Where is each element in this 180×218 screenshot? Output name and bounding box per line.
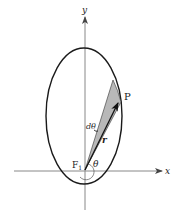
ellipse-diagram: y x P F1 θ dθ r bbox=[0, 0, 180, 218]
radius-label: r bbox=[102, 135, 108, 145]
point-P-label: P bbox=[124, 91, 131, 102]
dtheta-label: dθ bbox=[86, 122, 96, 131]
y-axis-label: y bbox=[81, 5, 88, 15]
x-axis-label: x bbox=[165, 166, 170, 176]
focus-label: F1 bbox=[72, 160, 82, 171]
diagram-svg: y x P F1 θ dθ r bbox=[0, 0, 180, 218]
theta-label: θ bbox=[93, 159, 99, 169]
